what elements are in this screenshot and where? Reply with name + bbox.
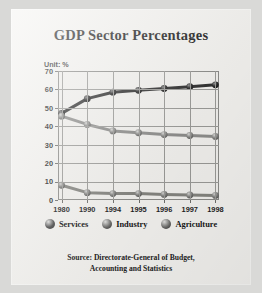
y-axis-tick xyxy=(55,108,58,109)
sphere-marker-icon xyxy=(161,219,171,229)
y-axis-tick-label: 10 xyxy=(31,177,53,186)
legend-item-services[interactable]: Services xyxy=(45,219,88,229)
legend-item-agriculture[interactable]: Agriculture xyxy=(161,219,217,229)
gridline-vertical xyxy=(164,71,165,200)
chart-figure: GDP Sector Percentages Unit: % 010203040… xyxy=(11,9,251,285)
y-axis-tick-label: 50 xyxy=(31,104,53,113)
source-line-1: Source: Directorate-General of Budget, xyxy=(11,252,251,263)
x-axis-tick xyxy=(190,200,191,203)
gridline-vertical xyxy=(215,71,216,200)
y-axis-tick xyxy=(55,145,58,146)
x-axis-tick-label: 1998 xyxy=(198,205,232,214)
y-axis-tick-label: 70 xyxy=(31,67,53,76)
y-axis-tick-label: 40 xyxy=(31,122,53,131)
scanned-page: GDP Sector Percentages Unit: % 010203040… xyxy=(0,0,262,293)
chart-legend: ServicesIndustryAgriculture xyxy=(11,219,251,229)
y-axis-tick xyxy=(55,71,58,72)
y-axis-tick xyxy=(55,163,58,164)
source-line-2: Accounting and Statistics xyxy=(11,263,251,274)
y-axis-tick xyxy=(55,126,58,127)
x-axis-tick xyxy=(139,200,140,203)
legend-item-label: Industry xyxy=(116,220,147,229)
y-axis-tick-label: 60 xyxy=(31,85,53,94)
gridline-vertical xyxy=(139,71,140,200)
legend-item-label: Services xyxy=(59,220,88,229)
y-axis-tick xyxy=(55,200,58,201)
gridline-vertical xyxy=(62,71,63,200)
x-axis-tick xyxy=(215,200,216,203)
plot-container: 0102030405060701980199019941995199619971… xyxy=(11,9,251,285)
y-axis-tick-label: 20 xyxy=(31,159,53,168)
gridline-vertical xyxy=(190,71,191,200)
sphere-marker-icon xyxy=(45,219,55,229)
gridline-vertical xyxy=(87,71,88,200)
y-axis-tick-label: 0 xyxy=(31,196,53,205)
x-axis-tick xyxy=(113,200,114,203)
x-axis-tick xyxy=(164,200,165,203)
y-axis-tick xyxy=(55,182,58,183)
source-note: Source: Directorate-General of Budget, A… xyxy=(11,252,251,274)
x-axis-tick xyxy=(87,200,88,203)
y-axis-tick-label: 30 xyxy=(31,141,53,150)
y-axis-tick xyxy=(55,89,58,90)
gridline-vertical xyxy=(113,71,114,200)
sphere-marker-icon xyxy=(102,219,112,229)
legend-item-label: Agriculture xyxy=(175,220,217,229)
x-axis-tick xyxy=(62,200,63,203)
legend-item-industry[interactable]: Industry xyxy=(102,219,147,229)
